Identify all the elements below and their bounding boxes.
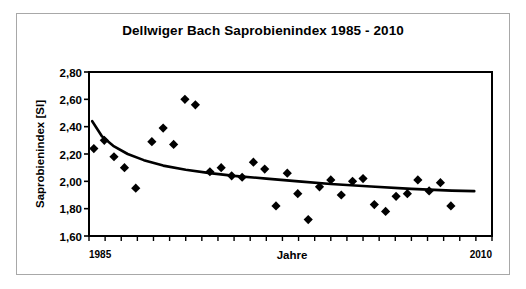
- data-point: [425, 186, 434, 195]
- data-point: [131, 184, 140, 193]
- data-point: [120, 163, 129, 172]
- y-tick-label: 1,60: [60, 231, 82, 243]
- data-point: [271, 201, 280, 210]
- data-point: [381, 207, 390, 216]
- data-point: [217, 163, 226, 172]
- data-point: [391, 192, 400, 201]
- data-point: [180, 95, 189, 104]
- data-point: [89, 144, 98, 153]
- data-point: [169, 140, 178, 149]
- data-point: [205, 167, 214, 176]
- x-axis-end-label: 2010: [470, 249, 493, 260]
- data-point: [238, 173, 247, 182]
- plot-area: Saprobienindex [SI] 1,601,802,002,202,40…: [0, 0, 526, 289]
- data-point: [191, 100, 200, 109]
- x-axis-label: Jahre: [277, 249, 308, 261]
- data-point: [293, 189, 302, 198]
- y-tick-labels: 1,601,802,002,202,402,602,80: [60, 67, 82, 243]
- chart-figure: Dellwiger Bach Saprobienindex 1985 - 201…: [0, 0, 526, 289]
- y-tick-label: 2,80: [60, 67, 82, 79]
- data-point: [159, 123, 168, 132]
- data-point: [403, 189, 412, 198]
- y-tick-label: 1,80: [60, 203, 82, 215]
- data-point: [337, 190, 346, 199]
- data-point: [249, 158, 258, 167]
- data-point: [304, 215, 313, 224]
- y-tick-label: 2,00: [60, 176, 82, 188]
- plot-frame: [89, 72, 492, 236]
- y-tick-label: 2,40: [60, 121, 82, 133]
- y-tick-label: 2,60: [60, 94, 82, 106]
- data-point: [436, 178, 445, 187]
- data-point: [413, 175, 422, 184]
- data-point: [370, 200, 379, 209]
- y-tick-label: 2,20: [60, 149, 82, 161]
- data-point: [109, 152, 118, 161]
- data-point: [227, 171, 236, 180]
- data-point: [446, 201, 455, 210]
- y-axis-label: Saprobienindex [SI]: [34, 100, 46, 208]
- data-point: [147, 137, 156, 146]
- data-point: [260, 164, 269, 173]
- data-point: [283, 169, 292, 178]
- x-axis-start-label: 1985: [89, 249, 112, 260]
- data-point: [358, 174, 367, 183]
